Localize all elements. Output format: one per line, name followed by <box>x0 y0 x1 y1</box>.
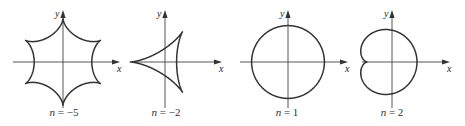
y-axis-label: y <box>54 8 60 19</box>
caption-n-minus-2: n = −2 <box>152 106 181 118</box>
y-axis-arrow-icon <box>389 10 394 18</box>
caption-value: −5 <box>67 106 79 118</box>
graph-n-2: xy <box>361 8 452 108</box>
y-axis-arrow-icon <box>60 10 65 18</box>
graph-n-minus-2: xy <box>130 8 224 108</box>
caption-n-1: n = 1 <box>276 106 299 118</box>
caption-equals: = <box>386 106 398 118</box>
x-axis-label: x <box>218 63 224 74</box>
caption-value: 1 <box>293 106 299 118</box>
graph-n-1: xy <box>240 8 350 108</box>
y-axis-label: y <box>383 8 389 19</box>
caption-equals: = <box>157 106 169 118</box>
caption-n-2: n = 2 <box>381 106 404 118</box>
parametric-curves-figure: xyxyxyxy n = −5 n = −2 n = 1 n = 2 <box>0 0 465 126</box>
y-axis-label: y <box>156 8 162 19</box>
y-axis-arrow-icon <box>162 10 167 18</box>
y-axis-label: y <box>279 8 285 19</box>
x-axis-label: x <box>446 63 452 74</box>
x-axis-label: x <box>116 63 122 74</box>
y-axis-arrow-icon <box>285 10 290 18</box>
caption-equals: = <box>281 106 293 118</box>
caption-n-minus-5: n = −5 <box>50 106 79 118</box>
caption-value: 2 <box>398 106 404 118</box>
x-axis-label: x <box>344 63 350 74</box>
caption-equals: = <box>55 106 67 118</box>
graph-n-minus-5: xy <box>13 8 122 108</box>
caption-value: −2 <box>169 106 181 118</box>
